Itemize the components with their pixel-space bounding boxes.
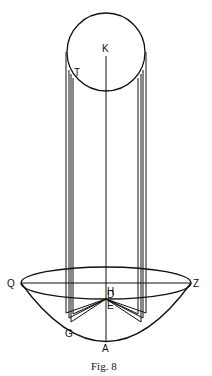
label-t: T [74,67,80,78]
diagram-labels: K T Q D Z E H G A Fig. 8 [0,0,212,376]
label-q: Q [7,278,15,289]
label-g: G [65,328,73,339]
label-e: E [107,300,114,311]
label-z: Z [193,278,199,289]
label-h: H [107,286,114,297]
figure-caption: Fig. 8 [91,360,117,372]
label-k: K [102,43,109,54]
label-a: A [102,343,109,354]
